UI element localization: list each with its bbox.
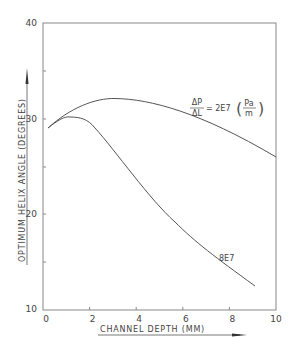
y-tick-10: 10 bbox=[26, 304, 38, 314]
x-tick-0: 0 bbox=[43, 314, 49, 324]
annot-paren-left: ( bbox=[236, 99, 242, 118]
plot-frame bbox=[43, 23, 276, 310]
x-tick-8: 8 bbox=[230, 314, 236, 324]
x-tick-4: 4 bbox=[136, 314, 142, 324]
annot-dl: ΔL bbox=[192, 109, 202, 118]
annot-dp: ΔP bbox=[192, 98, 202, 107]
annot-pa: Pa bbox=[244, 99, 253, 108]
annot-eq: = 2E7 bbox=[206, 104, 230, 113]
annotation-8e7: 8E7 bbox=[219, 254, 234, 263]
y-axis-title: OPTIMUM HELIX ANGLE (DEGREES) bbox=[18, 98, 27, 262]
x-axis-title: CHANNEL DEPTH (MM) bbox=[100, 325, 205, 334]
x-axis-arrow-icon bbox=[232, 334, 247, 337]
chart-canvas: 40 30 20 10 0 2 4 6 8 10 CHANNEL DEPTH (… bbox=[0, 0, 293, 353]
x-tick-2: 2 bbox=[90, 314, 96, 324]
x-tick-10: 10 bbox=[270, 314, 282, 324]
annot-paren-right: ) bbox=[258, 99, 264, 118]
annot-m: m bbox=[245, 109, 253, 118]
y-tick-40: 40 bbox=[26, 18, 38, 28]
x-tick-6: 6 bbox=[183, 314, 189, 324]
y-axis-arrow-icon bbox=[26, 68, 29, 84]
annotation-2e7: ΔP ΔL = 2E7 ( Pa m ) bbox=[190, 98, 264, 118]
